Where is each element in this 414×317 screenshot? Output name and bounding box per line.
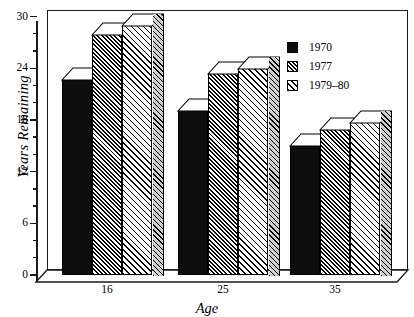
legend-item: 1970 bbox=[287, 38, 349, 57]
x-axis-title: Age bbox=[0, 300, 414, 317]
bar-1970-age-25 bbox=[178, 110, 208, 275]
light-hatch-swatch bbox=[287, 80, 298, 91]
bar-1979-80-age-25 bbox=[238, 68, 268, 275]
bar-1979-80-age-16 bbox=[122, 25, 152, 275]
bar-side-face bbox=[381, 111, 392, 276]
legend-item: 1977 bbox=[287, 57, 349, 76]
bar-side-face bbox=[153, 14, 164, 276]
legend-label: 1970 bbox=[309, 42, 332, 54]
bar-1970-age-35 bbox=[290, 145, 320, 275]
x-axis-tick-label: 35 bbox=[310, 283, 360, 295]
dark-hatch-swatch bbox=[287, 61, 298, 72]
legend-item: 1979–80 bbox=[287, 76, 349, 95]
bar-1977-age-25 bbox=[208, 73, 238, 275]
bar-series-container bbox=[0, 0, 414, 317]
bar-side-face bbox=[269, 57, 280, 276]
chart-legend: 197019771979–80 bbox=[287, 38, 349, 95]
x-axis-tick-label: 25 bbox=[198, 283, 248, 295]
legend-label: 1977 bbox=[309, 61, 332, 73]
bar-1977-age-35 bbox=[320, 129, 350, 275]
bar-1979-80-age-35 bbox=[350, 122, 380, 275]
x-axis-tick-label: 16 bbox=[82, 283, 132, 295]
bar-1970-age-16 bbox=[62, 79, 92, 275]
solid-black-swatch bbox=[287, 42, 298, 53]
bar-chart: 0612182430 Years Remaining 162535 Age 19… bbox=[0, 0, 414, 317]
legend-label: 1979–80 bbox=[309, 80, 349, 92]
bar-1977-age-16 bbox=[92, 34, 122, 275]
